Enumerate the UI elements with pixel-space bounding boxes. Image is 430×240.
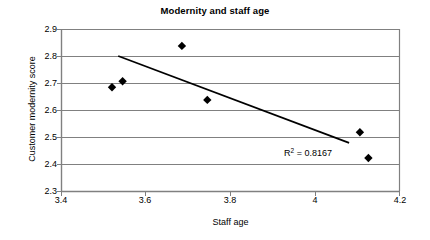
plot-area: R2 = 0.8167: [0, 0, 430, 240]
chart-container: Modernity and staff age Customer moderni…: [0, 0, 430, 240]
r-squared-suffix: = 0.8167: [294, 148, 332, 158]
y-axis-ticks: [57, 30, 61, 192]
